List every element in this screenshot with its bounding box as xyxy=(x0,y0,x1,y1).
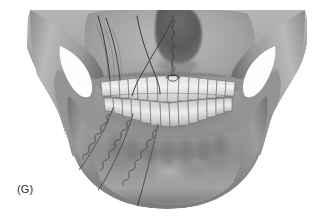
tooth-lower-l2 xyxy=(150,101,161,126)
tooth-lower-r1 xyxy=(169,102,179,127)
tooth-lower-r4 xyxy=(198,99,207,121)
figure-panel: (G) xyxy=(0,0,335,221)
tooth-upper-l7 xyxy=(101,81,111,96)
tooth-lower-r2 xyxy=(178,101,189,126)
tooth-upper-l6 xyxy=(110,80,120,97)
tooth-lower-r7 xyxy=(224,98,232,112)
tooth-lower-l1 xyxy=(160,102,170,127)
tooth-upper-l2 xyxy=(147,76,158,101)
tooth-lower-r3 xyxy=(188,100,198,124)
tooth-upper-r2 xyxy=(178,76,189,101)
maxillary-teeth xyxy=(101,76,235,102)
panel-label: (G) xyxy=(17,183,33,195)
tooth-upper-r6 xyxy=(216,80,226,97)
tooth-upper-r4 xyxy=(198,78,208,99)
tooth-upper-r3 xyxy=(188,77,199,100)
tooth-upper-r7 xyxy=(225,81,235,96)
tooth-lower-l4 xyxy=(131,99,141,121)
tooth-lower-l5 xyxy=(122,99,132,118)
subnasal-shadow xyxy=(158,58,198,74)
nasal-aperture xyxy=(155,4,202,63)
tooth-lower-l6 xyxy=(113,98,123,115)
tooth-lower-l3 xyxy=(140,100,151,124)
tooth-lower-r5 xyxy=(207,99,216,118)
tooth-upper-l4 xyxy=(128,78,138,99)
skull-illustration xyxy=(0,0,335,221)
tooth-lower-r6 xyxy=(216,98,224,115)
